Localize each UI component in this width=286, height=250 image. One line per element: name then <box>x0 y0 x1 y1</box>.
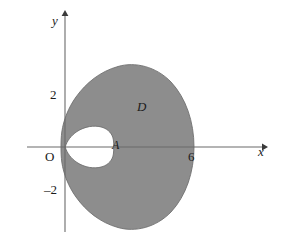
y-tick-label-negative-2: –2 <box>44 183 57 196</box>
figure-container: y 2 –2 O A 6 x D <box>0 0 286 250</box>
y-tick-label-2: 2 <box>50 88 57 101</box>
origin-label: O <box>45 150 54 163</box>
point-a-label: A <box>112 139 119 151</box>
limacon-figure-svg <box>0 0 286 250</box>
x-tick-label-6: 6 <box>188 150 195 163</box>
region-d-label: D <box>137 100 146 113</box>
x-axis-label: x <box>258 145 264 158</box>
y-axis-arrowhead <box>62 10 69 16</box>
y-axis-label: y <box>52 14 58 27</box>
